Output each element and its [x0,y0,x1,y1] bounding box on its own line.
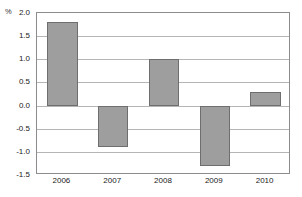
plot-area [36,12,290,174]
bar [149,59,179,105]
x-tick-label: 2009 [205,176,223,185]
bar-chart: % 2.01.51.00.50.0-0.5-1.0-1.5 2006200720… [0,0,302,197]
bar [98,106,128,148]
y-tick-label: 1.5 [19,31,30,40]
y-tick-label: 0.5 [19,77,30,86]
y-tick-label: -1.0 [16,146,30,155]
x-tick-label: 2006 [52,176,70,185]
y-tick-label: -0.5 [16,123,30,132]
x-axis-tick-labels: 20062007200820092010 [36,176,290,190]
y-tick-label: 1.0 [19,54,30,63]
bar [47,22,77,105]
bars-layer [37,13,289,173]
y-tick-label: -1.5 [16,170,30,179]
bar [200,106,230,166]
y-tick-label: 0.0 [19,100,30,109]
bar [250,92,280,106]
y-axis-tick-labels: 2.01.51.00.50.0-0.5-1.0-1.5 [0,12,33,174]
x-tick-label: 2010 [256,176,274,185]
x-tick-label: 2008 [154,176,172,185]
x-tick-label: 2007 [103,176,121,185]
y-tick-label: 2.0 [19,8,30,17]
